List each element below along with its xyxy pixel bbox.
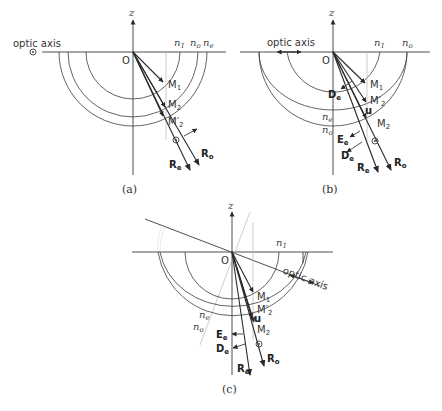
m2prime-label: M′2 <box>370 95 385 108</box>
caption-a: (a) <box>122 183 137 196</box>
m1-label: M1 <box>370 79 383 92</box>
ne-label: ne <box>199 309 210 322</box>
ne-label: ne <box>203 37 214 50</box>
ro-label: Ro <box>201 148 214 161</box>
m2prime-label: M′2 <box>168 116 183 129</box>
origin-label: O <box>221 255 229 266</box>
k-vector-m1 <box>333 52 365 83</box>
m2-label: M2 <box>168 99 181 112</box>
u-label: u <box>254 313 261 324</box>
caption-b: (b) <box>322 183 338 196</box>
panel-b: z O optic axis n1 no ne no De Ee De M1 <box>221 7 430 196</box>
caption-c: (c) <box>222 383 237 396</box>
ray-re <box>232 252 250 375</box>
birefringence-diagram: z O optic axis n1 no ne M1 M2 M′ <box>0 0 442 411</box>
index-surface-n1 <box>287 52 380 92</box>
n1-label: n1 <box>174 37 185 50</box>
origin-label: O <box>122 55 130 66</box>
optic-axis-label: optic axis <box>267 37 315 48</box>
re-label: Re <box>169 159 182 172</box>
m2-label: M2 <box>377 118 390 131</box>
z-label: z <box>227 200 234 211</box>
no-label: no <box>190 37 201 50</box>
optic-axis-out-of-page-icon <box>30 49 36 55</box>
m1-label: M1 <box>168 79 181 92</box>
de-label: De <box>216 343 229 356</box>
n1-label: n1 <box>276 237 287 250</box>
no-label: no <box>402 37 413 50</box>
ro-label: Ro <box>394 157 407 170</box>
optic-axis-label: optic axis <box>13 38 61 49</box>
de-label: De <box>341 150 354 163</box>
de-label-top: De <box>328 89 341 102</box>
n1-label: n1 <box>374 37 385 50</box>
polarization-arrow <box>184 129 197 136</box>
re-label: Re <box>357 162 370 175</box>
ee-label: Ee <box>337 134 349 147</box>
u-label: u <box>365 105 372 116</box>
z-label: z <box>328 7 335 18</box>
panel-c: z O optic axis n1 ne no Ee De <box>132 200 333 396</box>
ne-label-inner: ne <box>322 111 333 124</box>
polarization-out-of-page-icon <box>256 341 262 347</box>
ro-label: Ro <box>267 353 280 366</box>
re-label: Re <box>237 363 250 376</box>
panel-a: z O optic axis n1 no ne M1 M2 M′ <box>13 7 221 196</box>
ee-label: Ee <box>216 329 228 342</box>
de-vector <box>233 344 245 348</box>
z-label: z <box>128 7 135 18</box>
origin-label: O <box>322 55 330 66</box>
m2-label: M2 <box>257 324 270 337</box>
ray-re <box>133 52 190 170</box>
optic-axis-label: optic axis <box>281 265 330 292</box>
no-label: no <box>193 321 204 334</box>
ee-vector <box>350 131 360 137</box>
